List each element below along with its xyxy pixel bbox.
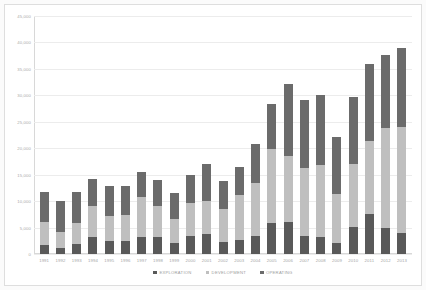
bar-segment-exploration[interactable]: [349, 227, 358, 255]
stacked-bar[interactable]: [235, 167, 244, 254]
bar-segment-exploration[interactable]: [40, 245, 49, 254]
bar-segment-exploration[interactable]: [186, 236, 195, 255]
bar-segment-development[interactable]: [381, 128, 390, 227]
bar-segment-exploration[interactable]: [381, 228, 390, 254]
bar-segment-operating[interactable]: [121, 186, 130, 216]
bar-group[interactable]: 2001: [199, 16, 215, 254]
stacked-bar[interactable]: [170, 193, 179, 254]
bar-group[interactable]: 1998: [150, 16, 166, 254]
bar-segment-development[interactable]: [349, 164, 358, 227]
bar-segment-operating[interactable]: [316, 95, 325, 164]
stacked-bar[interactable]: [202, 164, 211, 254]
bar-segment-operating[interactable]: [56, 201, 65, 233]
bar-segment-development[interactable]: [251, 183, 260, 236]
bar-segment-operating[interactable]: [88, 179, 97, 207]
legend-item[interactable]: DEVELOPMENT: [206, 270, 246, 275]
bar-group[interactable]: 2005: [264, 16, 280, 254]
bar-segment-development[interactable]: [219, 209, 228, 243]
bar-segment-development[interactable]: [365, 141, 374, 214]
bar-segment-exploration[interactable]: [251, 236, 260, 254]
stacked-bar[interactable]: [300, 100, 309, 254]
bar-segment-operating[interactable]: [72, 192, 81, 223]
bar-group[interactable]: 2008: [313, 16, 329, 254]
stacked-bar[interactable]: [284, 84, 293, 254]
bar-group[interactable]: 2013: [394, 16, 410, 254]
stacked-bar[interactable]: [397, 48, 406, 254]
stacked-bar[interactable]: [56, 201, 65, 254]
bar-segment-operating[interactable]: [219, 181, 228, 209]
stacked-bar[interactable]: [365, 64, 374, 254]
bar-segment-development[interactable]: [105, 216, 114, 241]
bar-segment-development[interactable]: [153, 206, 162, 237]
stacked-bar[interactable]: [88, 179, 97, 254]
bar-segment-development[interactable]: [300, 168, 309, 235]
bar-segment-operating[interactable]: [153, 180, 162, 206]
bar-segment-development[interactable]: [40, 222, 49, 245]
bar-segment-development[interactable]: [170, 219, 179, 243]
stacked-bar[interactable]: [219, 181, 228, 254]
stacked-bar[interactable]: [153, 180, 162, 254]
bar-group[interactable]: 1996: [117, 16, 133, 254]
legend-item[interactable]: EXPLORATION: [153, 270, 191, 275]
bar-segment-operating[interactable]: [365, 64, 374, 142]
bar-group[interactable]: 1993: [69, 16, 85, 254]
bar-segment-development[interactable]: [397, 127, 406, 233]
bar-group[interactable]: 2009: [329, 16, 345, 254]
bar-segment-development[interactable]: [137, 197, 146, 236]
bar-group[interactable]: 1999: [166, 16, 182, 254]
bar-segment-development[interactable]: [235, 195, 244, 240]
bar-segment-operating[interactable]: [235, 167, 244, 195]
bar-segment-development[interactable]: [56, 232, 65, 247]
bar-segment-operating[interactable]: [300, 100, 309, 168]
stacked-bar[interactable]: [349, 97, 358, 254]
bar-group[interactable]: 1994: [85, 16, 101, 254]
bar-segment-exploration[interactable]: [300, 236, 309, 255]
bar-group[interactable]: 1997: [134, 16, 150, 254]
bar-segment-exploration[interactable]: [153, 237, 162, 254]
bar-group[interactable]: 2010: [345, 16, 361, 254]
bar-group[interactable]: 2012: [378, 16, 394, 254]
bar-group[interactable]: 2003: [231, 16, 247, 254]
bar-segment-operating[interactable]: [40, 192, 49, 223]
stacked-bar[interactable]: [381, 55, 390, 254]
bar-segment-development[interactable]: [72, 223, 81, 244]
bar-segment-development[interactable]: [121, 215, 130, 240]
bar-segment-exploration[interactable]: [170, 243, 179, 254]
bar-segment-exploration[interactable]: [284, 222, 293, 254]
bar-group[interactable]: 2006: [280, 16, 296, 254]
bar-segment-exploration[interactable]: [219, 242, 228, 254]
stacked-bar[interactable]: [121, 186, 130, 254]
bar-segment-exploration[interactable]: [56, 248, 65, 254]
bar-group[interactable]: 2007: [296, 16, 312, 254]
bar-group[interactable]: 1991: [36, 16, 52, 254]
bar-segment-exploration[interactable]: [72, 244, 81, 254]
bar-segment-operating[interactable]: [186, 175, 195, 203]
bar-segment-operating[interactable]: [137, 172, 146, 198]
bar-segment-exploration[interactable]: [397, 233, 406, 254]
bar-group[interactable]: 2002: [215, 16, 231, 254]
bar-segment-development[interactable]: [267, 149, 276, 223]
bar-segment-operating[interactable]: [251, 144, 260, 183]
bar-segment-operating[interactable]: [332, 137, 341, 194]
bar-segment-operating[interactable]: [381, 55, 390, 128]
stacked-bar[interactable]: [186, 175, 195, 254]
bar-segment-development[interactable]: [316, 165, 325, 237]
bar-segment-exploration[interactable]: [105, 241, 114, 254]
bar-segment-development[interactable]: [88, 206, 97, 237]
bar-group[interactable]: 1995: [101, 16, 117, 254]
bar-segment-exploration[interactable]: [202, 234, 211, 254]
bar-segment-exploration[interactable]: [137, 237, 146, 254]
stacked-bar[interactable]: [105, 186, 114, 254]
bar-group[interactable]: 1992: [52, 16, 68, 254]
bar-segment-exploration[interactable]: [332, 243, 341, 254]
legend-item[interactable]: OPERATING: [260, 270, 293, 275]
bar-segment-development[interactable]: [186, 203, 195, 235]
bar-segment-operating[interactable]: [202, 164, 211, 200]
bar-segment-exploration[interactable]: [267, 223, 276, 254]
bar-segment-operating[interactable]: [349, 97, 358, 163]
bar-segment-exploration[interactable]: [316, 237, 325, 254]
stacked-bar[interactable]: [40, 192, 49, 254]
bar-group[interactable]: 2004: [247, 16, 263, 254]
bar-group[interactable]: 2000: [182, 16, 198, 254]
bar-segment-exploration[interactable]: [121, 241, 130, 254]
